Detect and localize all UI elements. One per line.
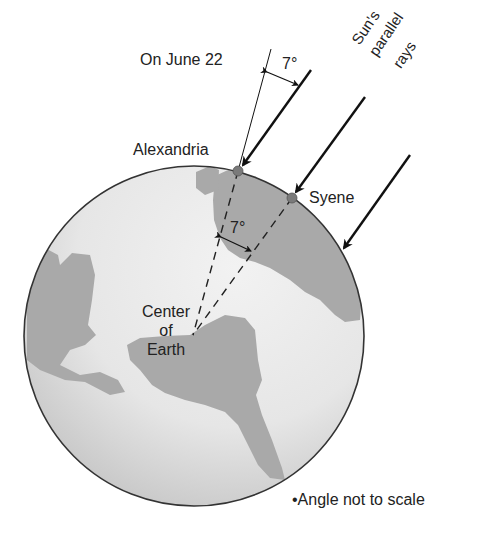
eratosthenes-diagram — [0, 0, 488, 534]
angle-label-top: 7° — [282, 56, 297, 72]
alexandria-label: Alexandria — [133, 142, 209, 158]
alexandria-dot — [233, 166, 243, 176]
center-label-line-2: of — [126, 321, 206, 340]
sun-ray-2 — [296, 97, 365, 192]
date-label: On June 22 — [140, 52, 223, 68]
center-label-line-1: Center — [126, 302, 206, 321]
center-label-line-3: Earth — [126, 340, 206, 359]
center-of-earth-label: Center of Earth — [126, 302, 206, 359]
syene-label: Syene — [309, 190, 354, 206]
sun-ray-1 — [243, 70, 311, 165]
footnote: •Angle not to scale — [292, 492, 425, 508]
zenith-line — [238, 49, 271, 171]
angle-arrow-top — [267, 72, 298, 85]
angle-label-center: 7° — [230, 220, 245, 236]
syene-dot — [287, 193, 297, 203]
